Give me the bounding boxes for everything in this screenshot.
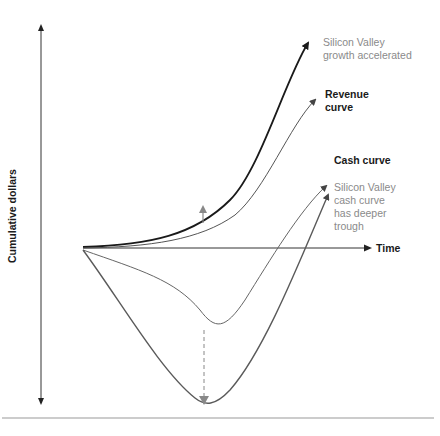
sv-cash-curve xyxy=(83,195,328,403)
sv-growth-label: Silicon Valley growth accelerated xyxy=(323,36,412,62)
revenue-curve xyxy=(83,100,315,248)
sv-growth-curve xyxy=(83,43,308,247)
sv-cash-label: Silicon Valley cash curve has deeper tro… xyxy=(334,181,396,233)
y-axis-label: Cumulative dollars xyxy=(6,151,18,281)
x-axis-label: Time xyxy=(376,242,400,255)
cash-curve-label: Cash curve xyxy=(334,154,391,167)
time-axis xyxy=(83,245,372,252)
arrow-up-icon xyxy=(38,24,44,31)
arrow-right-icon xyxy=(364,245,372,252)
revenue-label: Revenue curve xyxy=(325,88,369,114)
y-axis xyxy=(38,24,44,405)
trough-gap-arrow xyxy=(199,330,209,405)
arrow-down-icon xyxy=(38,398,44,405)
